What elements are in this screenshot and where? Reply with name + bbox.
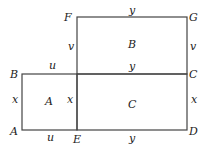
region-C-label: C: [128, 98, 137, 111]
point-A: A: [9, 125, 18, 138]
edge-GC-label: v: [190, 40, 197, 53]
edge-ED-label: y: [128, 132, 136, 145]
point-G: G: [189, 11, 198, 24]
lines: [22, 17, 187, 130]
edge-BC-left-label: u: [49, 59, 56, 72]
point-F: F: [63, 11, 72, 24]
edge-AE-label: u: [47, 131, 54, 144]
edge-EF-upper-label: v: [68, 40, 75, 53]
edge-BC-right-label: y: [128, 60, 136, 73]
edge-EF-lower-label: x: [67, 93, 74, 106]
point-D: D: [188, 125, 198, 138]
region-B-label: B: [127, 38, 136, 51]
point-B: B: [9, 68, 18, 81]
edge-CD-label: x: [191, 93, 198, 106]
point-E: E: [72, 133, 81, 146]
geometry-diagram: F G B C A E D B A C y u y u y x x x v v: [0, 0, 207, 152]
point-C: C: [189, 68, 198, 81]
edge-FG-label: y: [128, 4, 136, 17]
edge-AB-label: x: [12, 93, 19, 106]
region-A-label: A: [44, 95, 53, 108]
